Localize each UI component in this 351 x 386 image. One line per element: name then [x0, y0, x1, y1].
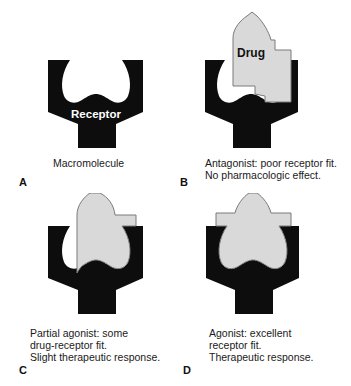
- receptor-label: Receptor: [71, 108, 121, 120]
- drug-shape: [216, 193, 291, 269]
- drug-label: Drug: [237, 46, 265, 60]
- caption-c: Partial agonist: some drug-receptor fit.…: [30, 327, 160, 363]
- caption-b: Antagonist: poor receptor fit. No pharma…: [205, 157, 337, 181]
- panel-a-macromolecule: Receptor Macromolecule A: [0, 0, 175, 193]
- panel-letter-b: B: [180, 176, 188, 188]
- receptor-shape: [48, 60, 143, 148]
- panel-letter-c: C: [19, 364, 27, 376]
- panel-b-antagonist: Drug Antagonist: poor receptor fit. No p…: [175, 0, 350, 193]
- panel-c-partial-agonist: Partial agonist: some drug-receptor fit.…: [0, 193, 175, 386]
- panel-d-agonist: Agonist: excellent receptor fit. Therape…: [175, 193, 350, 386]
- panel-letter-a: A: [19, 176, 27, 188]
- caption-a: Macromolecule: [53, 157, 124, 169]
- caption-d: Agonist: excellent receptor fit. Therape…: [209, 327, 313, 363]
- panel-letter-d: D: [183, 364, 191, 376]
